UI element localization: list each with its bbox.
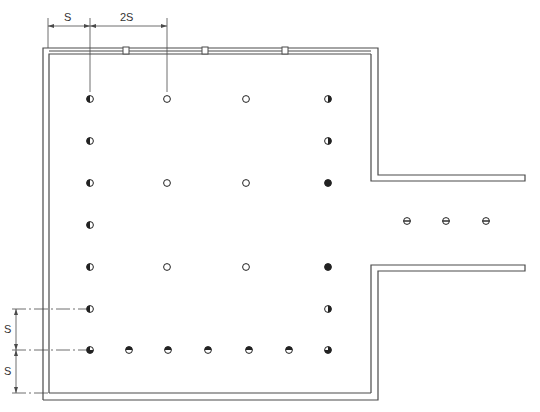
walls	[43, 48, 525, 400]
outer-wall	[43, 48, 525, 400]
light-fixture-corner-bl-icon	[87, 347, 94, 354]
light-fixture-half-left-icon	[87, 180, 94, 187]
light-fixture-half-right-icon	[325, 96, 332, 103]
light-fixture-top-half-icon	[246, 347, 253, 354]
light-fixture-bar-icon	[404, 218, 411, 225]
dim-label-s-left-1: S	[4, 323, 11, 335]
light-fixture-half-right-icon	[325, 306, 332, 313]
light-fixture-corner-br-icon	[325, 347, 332, 354]
window-mullion	[123, 47, 129, 54]
window-mullion	[202, 47, 208, 54]
dim-label-2s-top: 2S	[120, 11, 133, 23]
light-fixture-top-half-icon	[286, 347, 293, 354]
dim-label-s-top: S	[64, 11, 71, 23]
window-mullion	[282, 47, 288, 54]
light-fixture-half-left-icon	[87, 306, 94, 313]
light-fixture-open-icon	[243, 264, 250, 271]
light-fixture-half-right-icon	[325, 138, 332, 145]
light-fixture-open-icon	[164, 180, 171, 187]
light-fixture-top-half-icon	[165, 347, 172, 354]
light-fixture-open-icon	[243, 180, 250, 187]
light-fixture-bar-icon	[443, 218, 450, 225]
light-fixture-open-icon	[164, 264, 171, 271]
floor-plan: S 2S S S	[0, 0, 540, 412]
light-fixture-half-left-icon	[87, 264, 94, 271]
light-fixture-top-half-icon	[126, 347, 133, 354]
light-fixture-top-half-icon	[205, 347, 212, 354]
light-fixture-half-left-icon	[87, 138, 94, 145]
light-fixture-half-left-icon	[87, 96, 94, 103]
outer-wall-bottom	[43, 265, 525, 400]
light-fixture-half-left-icon	[87, 222, 94, 229]
light-fixtures	[87, 96, 490, 354]
light-fixture-bar-icon	[483, 218, 490, 225]
inner-wall	[49, 54, 371, 393]
light-fixture-three-quarter-icon	[325, 180, 332, 187]
light-fixture-open-icon	[243, 96, 250, 103]
dim-label-s-left-2: S	[4, 365, 11, 377]
light-fixture-three-quarter-icon	[325, 264, 332, 271]
top-dimensions	[48, 18, 167, 92]
light-fixture-open-icon	[164, 96, 171, 103]
